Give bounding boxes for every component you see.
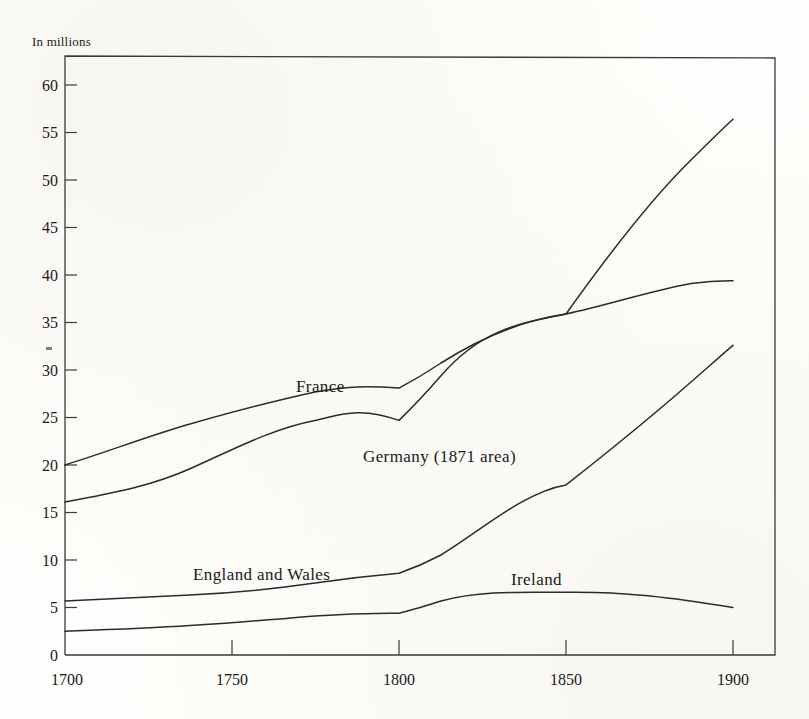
y-tick-label-35: 35 <box>42 314 58 331</box>
figure-page: In millions 60 55 50 45 40 35 30 25 20 1… <box>0 0 809 719</box>
x-tick-label-1850: 1850 <box>550 671 582 688</box>
series-label-ireland: Ireland <box>511 570 562 589</box>
y-tick-label-30: 30 <box>42 362 58 379</box>
series-label-france: France <box>296 377 345 396</box>
y-tick-label-55: 55 <box>42 124 58 141</box>
y-tick-label-5: 5 <box>50 599 58 616</box>
population-line-chart: In millions 60 55 50 45 40 35 30 25 20 1… <box>0 0 809 719</box>
series-label-england-wales: England and Wales <box>193 565 330 584</box>
y-tick-label-40: 40 <box>42 267 58 284</box>
y-tick-label-20: 20 <box>42 457 58 474</box>
y-tick-label-25: 25 <box>42 409 58 426</box>
y-tick-label-10: 10 <box>42 552 58 569</box>
axis-note-in-millions: In millions <box>32 34 91 49</box>
y-tick-label-45: 45 <box>42 219 58 236</box>
series-line-france <box>65 281 733 465</box>
series-line-ireland <box>65 592 733 631</box>
x-tick-labels: 1700 1750 1800 1850 1900 <box>51 671 749 688</box>
x-tick-label-1900: 1900 <box>717 671 749 688</box>
series-label-germany: Germany (1871 area) <box>363 447 516 466</box>
y-tick-label-60: 60 <box>42 77 58 94</box>
y-tick-label-50: 50 <box>42 172 58 189</box>
y-axis-ticks <box>65 85 77 608</box>
y-tick-labels: 60 55 50 45 40 35 30 25 20 15 10 5 0 <box>42 77 58 664</box>
x-tick-label-1800: 1800 <box>383 671 415 688</box>
x-tick-label-1750: 1750 <box>216 671 248 688</box>
series-line-england-wales <box>65 345 733 601</box>
x-axis-ticks <box>232 640 733 655</box>
y-tick-label-0: 0 <box>50 647 58 664</box>
y-tick-label-15: 15 <box>42 504 58 521</box>
x-tick-label-1700: 1700 <box>51 671 83 688</box>
series-line-germany <box>65 119 733 502</box>
scan-speck <box>46 347 52 350</box>
